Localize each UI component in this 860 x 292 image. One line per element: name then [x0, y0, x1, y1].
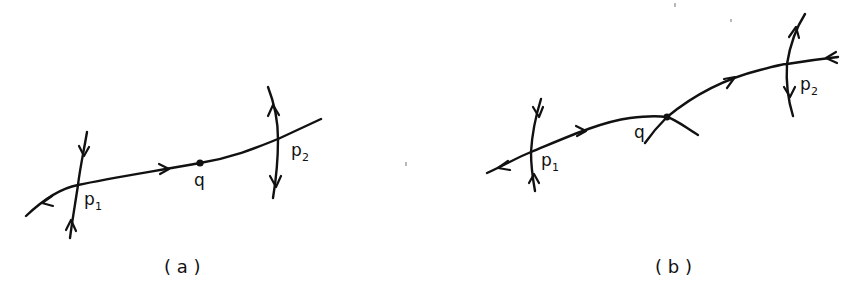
panel-a-p2-subscript: 2	[302, 151, 309, 164]
panel-a: p 1 q p 2 ( a )	[26, 87, 321, 277]
panel-b-q-point	[664, 114, 671, 121]
panel-b-caption: ( b )	[655, 256, 692, 277]
panel-b: p 1 q p 2 ( b )	[487, 14, 838, 277]
panel-b-p2-label: p	[800, 74, 811, 94]
panel-a-p1-subscript: 1	[95, 200, 102, 213]
panel-a-caption: ( a )	[164, 256, 201, 277]
scan-speck	[405, 162, 407, 166]
panel-b-p2-subscript: 2	[811, 85, 818, 98]
scan-speck	[674, 3, 676, 7]
scan-speck	[730, 19, 732, 22]
panel-a-q-label: q	[194, 170, 205, 190]
panel-a-p2-label: p	[291, 140, 302, 160]
panel-b-q-label: q	[634, 122, 645, 142]
panel-a-p1-label: p	[84, 189, 95, 209]
arrow-icon	[268, 105, 279, 116]
panel-b-p1-label: p	[541, 150, 552, 170]
figure-canvas: p 1 q p 2 ( a )	[0, 0, 860, 292]
panel-a-q-point	[196, 159, 203, 166]
panel-b-p1-subscript: 1	[552, 161, 559, 174]
panel-b-q-transversal	[667, 117, 698, 135]
arrow-icon	[784, 87, 795, 97]
panel-b-orbit-q-p2	[645, 57, 838, 143]
